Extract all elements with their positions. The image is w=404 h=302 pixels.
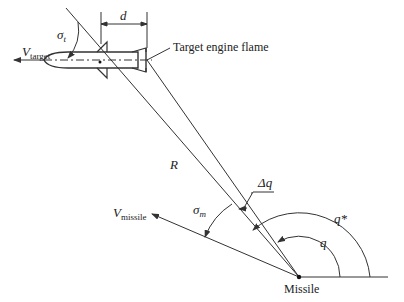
- missile-label: Missile: [284, 283, 319, 295]
- engine-flame-label: Target engine flame: [173, 41, 269, 53]
- rear-fin-bottom: [132, 68, 146, 72]
- sigma-m-label: σm: [193, 203, 206, 219]
- delta-q-arc: [239, 208, 247, 209]
- target-center-point: [99, 61, 102, 64]
- v-target-label: Vtarget: [22, 45, 50, 61]
- front-fin-bottom: [97, 68, 107, 78]
- delta-q-leader: [245, 192, 274, 206]
- q-star-label: q*: [334, 212, 347, 225]
- v-missile-label: Vmissile: [113, 206, 146, 222]
- d-label: d: [120, 9, 127, 22]
- missile-guidance-diagram: Vtarget σt d Target engine flame R Δq Vm…: [0, 0, 404, 302]
- missile-point: [297, 275, 301, 279]
- target-body: [44, 52, 138, 68]
- front-fin-top: [97, 42, 107, 52]
- sigma-m-arc: [205, 204, 232, 237]
- q-label: q: [320, 236, 327, 249]
- rear-fin-top: [132, 48, 146, 52]
- q-arc: [278, 236, 340, 277]
- sigma-t-label: σt: [57, 28, 66, 44]
- delta-q-label: Δq: [258, 176, 272, 189]
- flame-leader: [147, 48, 170, 60]
- R-label: R: [170, 158, 178, 171]
